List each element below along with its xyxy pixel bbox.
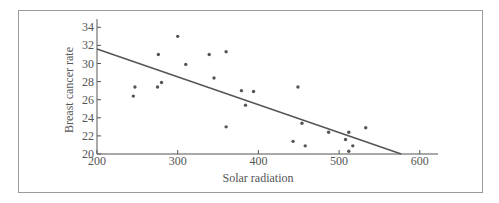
data-point [176, 35, 179, 38]
x-tick-label: 400 [249, 154, 267, 168]
data-point [296, 85, 299, 88]
y-axis-label: Breast cancer rate [62, 47, 76, 133]
data-point [291, 140, 294, 143]
data-points [132, 35, 368, 153]
axes [97, 19, 438, 154]
x-tick-label: 600 [411, 154, 429, 168]
scatter-chart: 2022242628303234 200300400500600 Solar r… [0, 0, 499, 203]
y-tick-label: 30 [82, 57, 94, 71]
data-point [133, 85, 136, 88]
y-tick-label: 22 [82, 129, 94, 143]
regression-line-segment [97, 49, 401, 154]
y-axis-ticks: 2022242628303234 [82, 20, 101, 161]
x-axis-ticks: 200300400500600 [88, 150, 429, 168]
data-point [347, 131, 350, 134]
data-point [212, 76, 215, 79]
y-tick-label: 26 [82, 93, 94, 107]
data-point [132, 94, 135, 97]
regression-line [97, 49, 401, 154]
data-point [304, 144, 307, 147]
x-tick-label: 200 [88, 154, 106, 168]
x-tick-label: 500 [330, 154, 348, 168]
data-point [207, 53, 210, 56]
data-point [240, 89, 243, 92]
data-point [224, 50, 227, 53]
y-tick-label: 24 [82, 111, 94, 125]
y-tick-label: 28 [82, 75, 94, 89]
data-point [327, 131, 330, 134]
y-tick-label: 34 [82, 20, 94, 34]
data-point [184, 63, 187, 66]
data-point [347, 150, 350, 153]
data-point [252, 90, 255, 93]
data-point [344, 138, 347, 141]
x-axis-label: Solar radiation [223, 171, 294, 185]
data-point [300, 122, 303, 125]
data-point [160, 81, 163, 84]
data-point [364, 126, 367, 129]
data-point [224, 125, 227, 128]
data-point [351, 144, 354, 147]
data-point [244, 103, 247, 106]
data-point [157, 53, 160, 56]
data-point [156, 85, 159, 88]
y-tick-label: 32 [82, 38, 94, 52]
x-tick-label: 300 [169, 154, 187, 168]
